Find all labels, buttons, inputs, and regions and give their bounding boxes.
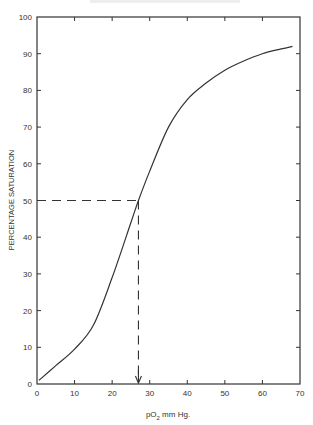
svg-text:0: 0 [28,380,33,389]
svg-text:10: 10 [70,389,79,398]
tick-labels: 0102030405060700102030405060708090100 [19,13,305,398]
svg-text:100: 100 [19,13,33,22]
svg-text:0: 0 [35,389,40,398]
svg-text:40: 40 [23,233,32,242]
oxygen-dissociation-chart: 0102030405060700102030405060708090100 PE… [0,0,313,425]
svg-text:10: 10 [23,343,32,352]
axis-ticks [37,17,300,384]
svg-text:70: 70 [296,389,305,398]
svg-text:80: 80 [23,86,32,95]
x-axis-label: pO2 mm Hg. [146,410,190,421]
svg-text:30: 30 [145,389,154,398]
svg-text:60: 60 [23,160,32,169]
p50-annotation [37,201,141,384]
svg-text:30: 30 [23,270,32,279]
svg-text:50: 50 [23,197,32,206]
plot-frame [37,17,300,384]
svg-text:70: 70 [23,123,32,132]
svg-text:20: 20 [23,307,32,316]
svg-text:60: 60 [258,389,267,398]
dissociation-curve [39,46,293,380]
svg-text:50: 50 [220,389,229,398]
y-axis-label: PERCENTAGE SATURATION [7,150,16,250]
svg-text:90: 90 [23,50,32,59]
svg-text:20: 20 [108,389,117,398]
svg-text:40: 40 [183,389,192,398]
